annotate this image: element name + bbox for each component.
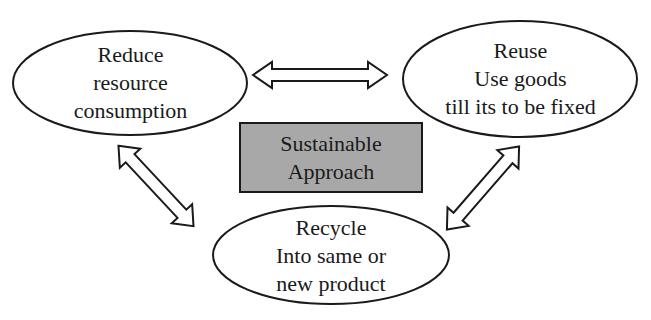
reduce-node: Reduce resource consumption bbox=[13, 32, 248, 134]
center-node: Sustainable Approach bbox=[240, 126, 422, 190]
reuse-line-3: till its to be fixed bbox=[445, 93, 595, 121]
recycle-line-2: Into same or bbox=[276, 242, 386, 270]
recycle-line-3: new product bbox=[276, 270, 385, 298]
reduce-line-2: resource bbox=[93, 69, 168, 97]
reuse-line-2: Use goods bbox=[474, 65, 566, 93]
reuse-title: Reuse bbox=[494, 37, 548, 65]
recycle-node: Recycle Into same or new product bbox=[213, 210, 449, 302]
reuse-node: Reuse Use goods till its to be fixed bbox=[403, 28, 638, 130]
reduce-line-3: consumption bbox=[74, 97, 188, 125]
center-line-1: Sustainable bbox=[280, 130, 381, 158]
reduce-title: Reduce bbox=[98, 41, 164, 69]
center-line-2: Approach bbox=[288, 158, 375, 186]
double-arrow-reduce-reuse bbox=[253, 62, 387, 88]
double-arrow-reuse-recycle bbox=[436, 137, 529, 238]
double-arrow-reduce-recycle bbox=[108, 136, 203, 236]
recycle-title: Recycle bbox=[296, 214, 367, 242]
